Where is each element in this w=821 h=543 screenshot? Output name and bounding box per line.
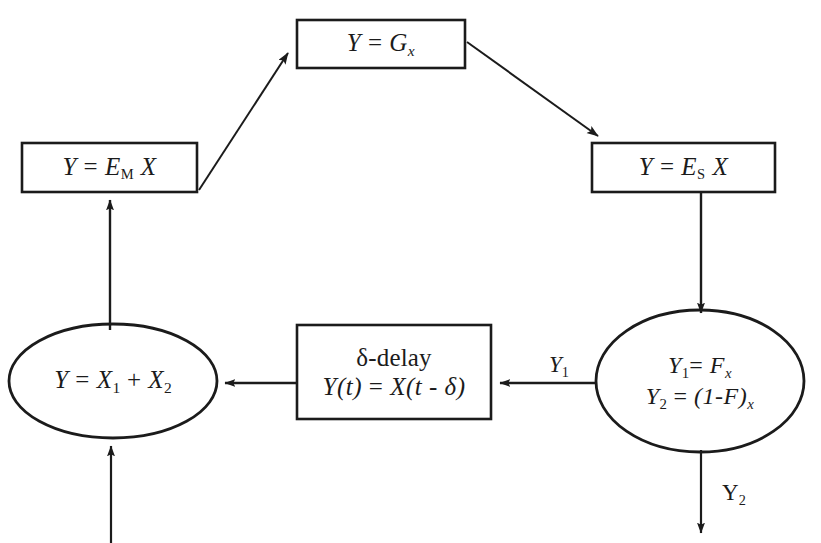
- edge-em-to-g-line: [199, 53, 288, 190]
- e-s-box-outline: [592, 143, 775, 192]
- delta-delay-box-outline: [297, 325, 491, 419]
- diagram-canvas: Y = Gx Y = EM X Y = ES X Y = X1 + X2 δ-d…: [0, 0, 821, 543]
- diagram-vector-layer: [0, 0, 821, 543]
- edge-g-to-es-line: [467, 42, 598, 136]
- summation-node-outline: [9, 324, 217, 438]
- gain-box-outline: [297, 20, 465, 68]
- e-m-box-outline: [22, 143, 197, 192]
- split-node-outline: [596, 310, 804, 452]
